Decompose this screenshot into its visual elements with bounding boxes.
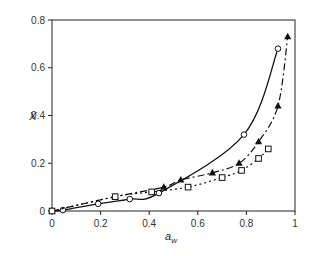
circle-marker-icon: [127, 196, 133, 202]
square-marker-icon: [239, 168, 245, 174]
y-axis-label: X: [28, 110, 37, 122]
x-axis-ticks: 00.20.40.60.81: [49, 211, 298, 229]
triangle-marker-icon: [236, 159, 243, 166]
x-tick-label: 0.2: [94, 218, 108, 229]
y-tick-label: 0: [39, 206, 45, 217]
y-tick-label: 0.2: [31, 158, 45, 169]
square-marker-icon: [185, 184, 191, 190]
x-tick-label: 1: [292, 218, 298, 229]
x-tick-label: 0.8: [239, 218, 253, 229]
x-axis-label: aw: [165, 230, 178, 245]
square-marker-icon: [265, 146, 271, 152]
triangle-marker-icon: [274, 102, 281, 109]
circle-marker-icon: [241, 132, 247, 138]
chart: 00.20.40.60.81 00.20.40.60.8 X aw: [0, 0, 311, 256]
x-tick-label: 0.6: [191, 218, 205, 229]
square-marker-icon: [256, 156, 262, 162]
series-squares: [49, 146, 271, 214]
square-marker-icon: [149, 189, 155, 195]
y-tick-label: 0.8: [31, 15, 45, 26]
y-tick-label: 0.6: [31, 62, 45, 73]
circle-marker-icon: [275, 46, 281, 52]
square-marker-icon: [49, 208, 55, 214]
x-tick-label: 0.4: [142, 218, 156, 229]
x-tick-label: 0: [49, 218, 55, 229]
square-marker-icon: [112, 194, 118, 200]
data-series: [48, 33, 291, 214]
plot-frame: [52, 20, 295, 211]
circle-marker-icon: [95, 201, 101, 207]
square-marker-icon: [219, 175, 225, 181]
triangle-marker-icon: [284, 33, 291, 40]
